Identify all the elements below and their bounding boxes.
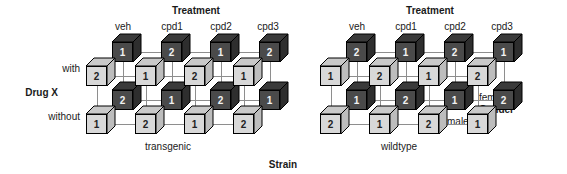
cube-transgenic-cpd2-without-male: 1 (184, 106, 214, 134)
cube-transgenic-cpd2-with-male: 2 (184, 58, 214, 86)
treatment-tick-cpd2-left: cpd2 (210, 22, 232, 32)
cube-wildtype-cpd3-with-female: 1 (493, 34, 523, 62)
cube-wildtype-cpd1-with-male: 2 (369, 58, 399, 86)
connector-horizontal (97, 124, 244, 125)
connector-horizontal (123, 52, 270, 53)
cube-transgenic-cpd3-with-male: 1 (233, 58, 263, 86)
strain-tick-transgenic: transgenic (145, 142, 191, 152)
panel-transgenic: Treatment veh cpd1 cpd2 cpd3 with withou… (0, 0, 283, 174)
treatment-tick-cpd2-right: cpd2 (444, 22, 466, 32)
cube-wildtype-cpd3-without-male: 1 (467, 106, 497, 134)
gender-tick-male: male (447, 117, 469, 127)
cube-wildtype-cpd3-with-male: 2 (467, 58, 497, 86)
cube-wildtype-cpd2-without-male: 2 (418, 106, 448, 134)
cube-wildtype-cpd3-without-female: 2 (493, 82, 523, 110)
cube-transgenic-veh-without-male: 1 (86, 106, 116, 134)
strain-axis-label: Strain (269, 160, 297, 170)
cube-transgenic-cpd3-without-male: 2 (233, 106, 263, 134)
cube-transgenic-cpd1-with-male: 1 (135, 58, 165, 86)
cube-transgenic-cpd1-without-male: 2 (135, 106, 165, 134)
cube-wildtype-veh-without-male: 2 (320, 106, 350, 134)
drug-axis-label: Drug X (25, 88, 58, 98)
treatment-tick-cpd3-left: cpd3 (257, 22, 279, 32)
connector-horizontal (357, 52, 504, 53)
connector-horizontal (331, 124, 478, 125)
drug-tick-with: with (62, 64, 80, 74)
treatment-tick-cpd1-right: cpd1 (395, 22, 417, 32)
cube-wildtype-veh-with-male: 1 (320, 58, 350, 86)
treatment-axis-label-left: Treatment (172, 6, 220, 16)
panel-wildtype: Treatment veh cpd1 cpd2 cpd3 female male… (283, 0, 566, 174)
strain-tick-wildtype: wildtype (381, 142, 417, 152)
treatment-tick-veh-left: veh (115, 22, 131, 32)
figure-canvas: Treatment veh cpd1 cpd2 cpd3 with withou… (0, 0, 567, 174)
cube-wildtype-cpd1-without-male: 1 (369, 106, 399, 134)
treatment-tick-cpd3-right: cpd3 (491, 22, 513, 32)
drug-tick-without: without (48, 112, 80, 122)
treatment-tick-veh-right: veh (349, 22, 365, 32)
treatment-axis-label-right: Treatment (406, 6, 454, 16)
cube-transgenic-veh-with-male: 2 (86, 58, 116, 86)
treatment-tick-cpd1-left: cpd1 (161, 22, 183, 32)
cube-wildtype-cpd2-with-male: 1 (418, 58, 448, 86)
